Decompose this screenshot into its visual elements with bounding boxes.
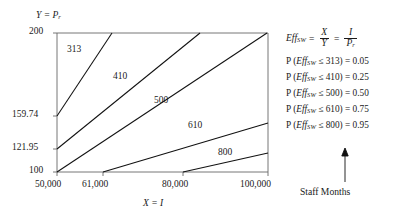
formula-fraction-xy: X Y xyxy=(319,28,329,49)
contour-label-313: 313 xyxy=(67,45,81,55)
y-tick-121: 121.95 xyxy=(12,143,38,153)
x-tick-50000: 50,000 xyxy=(35,180,61,190)
probability-row: P (EffSW ≤ 313) = 0.05 xyxy=(286,56,410,66)
x-tick-80000: 80,000 xyxy=(162,180,188,190)
formula-equals-2: = xyxy=(334,34,339,44)
contour-label-410: 410 xyxy=(113,72,127,82)
contour-line-313 xyxy=(57,33,112,116)
formula-eff-term: EffSW xyxy=(286,33,306,43)
x-tick-61000: 61,000 xyxy=(82,180,108,190)
contour-label-610: 610 xyxy=(188,121,202,131)
efficiency-formula: EffSW = X Y = I Pr xyxy=(286,28,410,49)
up-arrow-icon xyxy=(342,148,348,182)
x-axis-title: X = I xyxy=(143,199,163,209)
probability-row: P (EffSW ≤ 610) = 0.75 xyxy=(286,104,410,114)
y-axis-ticks xyxy=(53,33,57,172)
y-tick-200: 200 xyxy=(29,27,43,37)
x-tick-100000: 100,000 xyxy=(240,180,271,190)
probability-row: P (EffSW ≤ 500) = 0.50 xyxy=(286,88,410,98)
y-tick-100: 100 xyxy=(29,166,43,176)
y-tick-159: 159.74 xyxy=(12,110,38,120)
x-axis-ticks xyxy=(57,172,268,176)
contour-label-800: 800 xyxy=(218,148,232,158)
formula-fraction-ipr: I Pr xyxy=(344,28,356,49)
probability-row: P (EffSW ≤ 800) = 0.95 xyxy=(286,120,410,130)
legend-panel: EffSW = X Y = I Pr P (EffSW ≤ 313) = 0.0… xyxy=(286,28,410,135)
probability-row: P (EffSW ≤ 410) = 0.25 xyxy=(286,72,410,82)
formula-pr-denominator: Pr xyxy=(344,38,356,49)
staff-months-annotation: Staff Months xyxy=(300,186,350,197)
y-axis-title: Y = Pr xyxy=(36,11,61,21)
contour-line-610 xyxy=(103,123,268,172)
contour-label-500: 500 xyxy=(154,96,168,106)
formula-equals-1: = xyxy=(309,34,314,44)
